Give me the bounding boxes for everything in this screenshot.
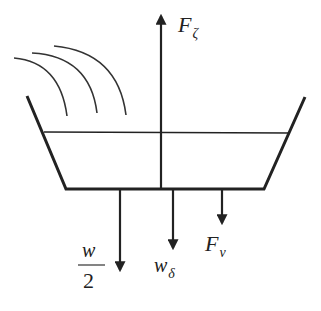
label-half-weight-num: w (82, 240, 95, 260)
liquid-surface (44, 132, 290, 133)
label-f-nu: Fν (205, 233, 226, 255)
label-f-zeta: Fζ (178, 14, 198, 36)
label-half-weight-den: 2 (83, 270, 94, 292)
container (27, 96, 305, 189)
label-w-delta: wδ (154, 255, 175, 275)
